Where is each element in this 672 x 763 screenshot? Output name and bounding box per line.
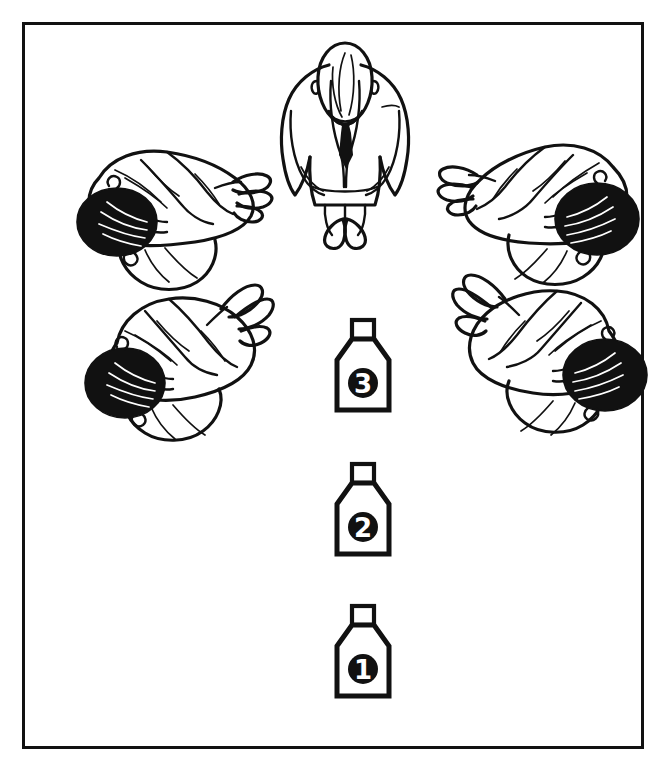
container-number-label: 1: [354, 655, 372, 685]
container-1[interactable]: 1: [325, 601, 405, 711]
bowing-figure-bottom-left: [69, 273, 289, 463]
illustration-canvas: 3 2 1: [0, 0, 672, 763]
container-number-label: 3: [354, 369, 372, 399]
container-3[interactable]: 3: [325, 315, 405, 425]
bowing-figure-bottom-right: [423, 265, 658, 465]
container-2[interactable]: 2: [325, 459, 405, 569]
standing-figure: [269, 37, 419, 237]
diagram-frame: 3 2 1: [22, 22, 644, 749]
container-number-label: 2: [354, 513, 372, 543]
